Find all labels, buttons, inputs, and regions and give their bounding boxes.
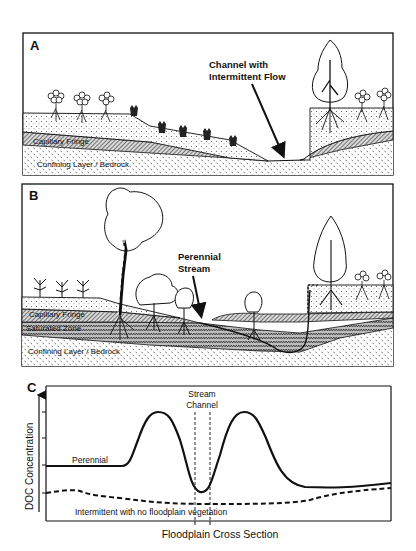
topsoil-bank-right bbox=[308, 285, 393, 313]
x-axis-label: Floodplain Cross Section bbox=[162, 528, 279, 540]
stream-channel-label-line1: Stream bbox=[188, 389, 215, 399]
panel-c: C DOC Concentration Stream Channel Peren… bbox=[24, 380, 391, 540]
panel-b-bedrock-label: Confining Layer / Bedrock bbox=[28, 347, 121, 356]
panel-a: A Channel with Intermittent Flow Capilla… bbox=[23, 33, 393, 175]
panel-b: B Perennial Stream Capillary Fringe Satu… bbox=[22, 184, 393, 366]
y-axis-label: DOC Concentration bbox=[24, 423, 35, 510]
panel-a-callout-line1: Channel with bbox=[209, 59, 268, 70]
panel-b-saturated-label: Saturated Zone bbox=[26, 324, 82, 333]
panel-b-capillary-label: Capillary Fringe bbox=[29, 310, 86, 319]
panel-a-bedrock-label: Confining Layer / Bedrock bbox=[37, 160, 130, 169]
panel-a-letter: A bbox=[30, 38, 40, 53]
panel-a-callout-line2: Intermittent Flow bbox=[209, 71, 286, 82]
panel-c-letter: C bbox=[27, 380, 37, 395]
intermittent-series-line bbox=[46, 488, 391, 504]
intermittent-series-label: Intermittent with no floodplain vegetati… bbox=[75, 507, 227, 517]
perennial-series-label: Perennial bbox=[72, 455, 108, 465]
diagram-canvas: A Channel with Intermittent Flow Capilla… bbox=[0, 0, 416, 551]
panel-b-letter: B bbox=[29, 188, 38, 203]
panel-a-capillary-label: Capillary Fringe bbox=[33, 137, 90, 146]
panel-b-callout-line1: Perennial bbox=[178, 251, 221, 262]
stream-channel-label-line2: Channel bbox=[186, 400, 218, 410]
perennial-series-line bbox=[46, 412, 391, 492]
panel-b-callout-line2: Stream bbox=[178, 263, 210, 274]
